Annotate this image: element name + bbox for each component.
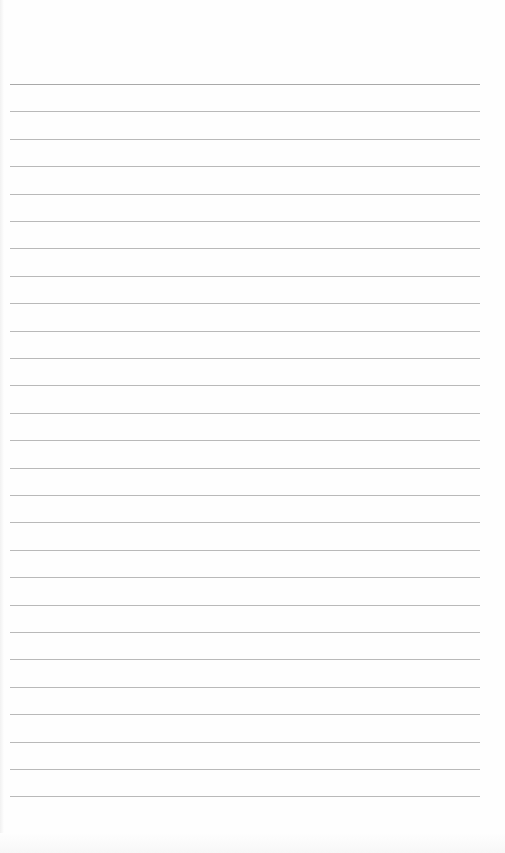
ruled-line <box>10 111 480 112</box>
ruled-line <box>10 84 480 85</box>
ruled-line <box>10 577 480 578</box>
ruled-line <box>10 714 480 715</box>
ruled-line <box>10 742 480 743</box>
ruled-line <box>10 221 480 222</box>
ruled-line <box>10 194 480 195</box>
ruled-line <box>10 358 480 359</box>
ruled-line <box>10 413 480 414</box>
ruled-line <box>10 248 480 249</box>
ruled-line <box>10 468 480 469</box>
ruled-line <box>10 796 480 797</box>
ruled-line <box>10 632 480 633</box>
ruled-line <box>10 276 480 277</box>
ruled-line <box>10 605 480 606</box>
ruled-line <box>10 166 480 167</box>
ruled-line <box>10 659 480 660</box>
ruled-line <box>10 385 480 386</box>
ruled-line <box>10 522 480 523</box>
ruled-line <box>10 687 480 688</box>
page-bottom-shadow <box>0 833 505 853</box>
ruled-line <box>10 495 480 496</box>
ruled-line <box>10 331 480 332</box>
page-edge-shadow <box>0 0 4 853</box>
ruled-line <box>10 139 480 140</box>
ruled-line <box>10 769 480 770</box>
ruled-line <box>10 440 480 441</box>
ruled-line <box>10 550 480 551</box>
lined-paper-page <box>0 0 505 853</box>
ruled-line <box>10 303 480 304</box>
